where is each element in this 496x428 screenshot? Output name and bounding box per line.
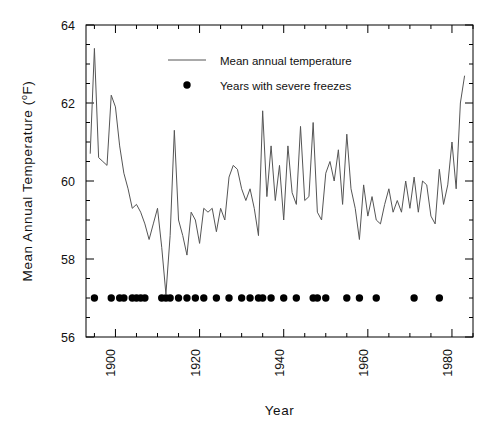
y-tick-label: 60: [61, 175, 75, 189]
severe-freeze-dot: [141, 294, 148, 301]
severe-freeze-dot: [343, 294, 350, 301]
severe-freeze-dot: [120, 294, 127, 301]
legend-label-freezes: Years with severe freezes: [220, 80, 352, 92]
severe-freeze-dot: [436, 294, 443, 301]
severe-freeze-dot: [410, 294, 417, 301]
severe-freeze-dot: [314, 294, 321, 301]
x-tick-label: 1960: [357, 349, 371, 377]
severe-freeze-dot: [373, 294, 380, 301]
severe-freeze-dot: [238, 294, 245, 301]
y-tick-label: 62: [61, 97, 75, 111]
y-tick-label: 56: [61, 331, 75, 345]
severe-freeze-dot: [322, 294, 329, 301]
x-axis-title: Year: [265, 403, 295, 418]
severe-freeze-dot: [183, 294, 190, 301]
severe-freeze-dot: [293, 294, 300, 301]
severe-freeze-dot: [225, 294, 232, 301]
y-tick-label: 64: [61, 19, 75, 33]
y-tick-label: 58: [61, 253, 75, 267]
x-tick-label: 1920: [189, 349, 203, 377]
chart-figure: 565860626419001920194019601980YearMean A…: [0, 0, 496, 428]
severe-freeze-dot: [280, 294, 287, 301]
severe-freeze-dot: [267, 294, 274, 301]
severe-freeze-dot: [213, 294, 220, 301]
severe-freeze-dot: [108, 294, 115, 301]
x-tick-label: 1900: [104, 349, 118, 377]
temperature-chart: 565860626419001920194019601980YearMean A…: [0, 0, 496, 428]
severe-freeze-dot: [246, 294, 253, 301]
severe-freeze-dot: [175, 294, 182, 301]
severe-freeze-dot: [200, 294, 207, 301]
severe-freeze-dot: [91, 294, 98, 301]
legend-label-temperature: Mean annual temperature: [220, 55, 352, 67]
severe-freeze-dot: [259, 294, 266, 301]
y-axis-title: Mean Annual Temperature (oF): [19, 81, 35, 282]
severe-freeze-dot: [356, 294, 363, 301]
x-tick-label: 1980: [441, 349, 455, 377]
severe-freeze-dot: [166, 294, 173, 301]
legend-dot-swatch: [183, 81, 190, 88]
severe-freeze-dot: [192, 294, 199, 301]
x-tick-label: 1940: [273, 349, 287, 377]
